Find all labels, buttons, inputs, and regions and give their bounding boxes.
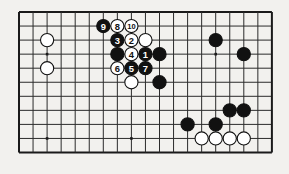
go-board-svg[interactable]: 98103241657: [0, 0, 289, 174]
go-board-container: 98103241657: [0, 0, 289, 174]
numbered-stone[interactable]: 10: [125, 19, 138, 32]
stone[interactable]: [237, 132, 250, 145]
black-stone-icon: [237, 48, 250, 61]
stone[interactable]: [223, 104, 236, 117]
stone[interactable]: [237, 104, 250, 117]
stone[interactable]: [153, 76, 166, 89]
black-stone-icon: [181, 118, 194, 131]
numbered-stone[interactable]: 5: [125, 62, 138, 75]
move-number-label: 8: [115, 21, 120, 32]
stone[interactable]: [41, 62, 54, 75]
numbered-stone[interactable]: 8: [111, 19, 124, 32]
go-diagram-figure: 98103241657: [0, 0, 289, 174]
white-stone-icon: [125, 76, 138, 89]
black-stone-icon: [153, 76, 166, 89]
stone[interactable]: [153, 48, 166, 61]
numbered-stone[interactable]: 3: [111, 34, 124, 47]
black-stone-icon: [237, 104, 250, 117]
white-stone-icon: [195, 132, 208, 145]
numbered-stone[interactable]: 9: [97, 19, 110, 32]
move-number-label: 1: [143, 49, 148, 60]
white-stone-icon: [41, 34, 54, 47]
numbered-stone[interactable]: 6: [111, 62, 124, 75]
stone[interactable]: [209, 118, 222, 131]
white-stone-icon: [41, 62, 54, 75]
stone[interactable]: [125, 76, 138, 89]
stone[interactable]: [237, 48, 250, 61]
stone[interactable]: [181, 118, 194, 131]
move-number-label: 5: [129, 63, 134, 74]
stone[interactable]: [139, 34, 152, 47]
move-number-label: 2: [129, 35, 134, 46]
numbered-stone[interactable]: 2: [125, 34, 138, 47]
black-stone-icon: [209, 118, 222, 131]
star-point: [214, 53, 217, 56]
star-point: [130, 137, 133, 140]
numbered-stone[interactable]: 1: [139, 48, 152, 61]
black-stone-icon: [209, 34, 222, 47]
star-point: [46, 53, 49, 56]
white-stone-icon: [237, 132, 250, 145]
stone[interactable]: [223, 132, 236, 145]
white-stone-icon: [139, 34, 152, 47]
black-stone-icon: [153, 48, 166, 61]
white-stone-icon: [209, 132, 222, 145]
move-number-label: 6: [115, 63, 120, 74]
black-stone-icon: [111, 48, 124, 61]
stone[interactable]: [209, 34, 222, 47]
stone[interactable]: [209, 132, 222, 145]
star-point: [46, 137, 49, 140]
stone[interactable]: [111, 48, 124, 61]
numbered-stone[interactable]: 7: [139, 62, 152, 75]
numbered-stone[interactable]: 4: [125, 48, 138, 61]
stone[interactable]: [195, 132, 208, 145]
move-number-label: 10: [127, 22, 135, 31]
move-number-label: 7: [143, 63, 148, 74]
move-number-label: 3: [115, 35, 120, 46]
move-number-label: 4: [129, 49, 135, 60]
white-stone-icon: [223, 132, 236, 145]
black-stone-icon: [223, 104, 236, 117]
stone[interactable]: [41, 34, 54, 47]
move-number-label: 9: [101, 21, 106, 32]
